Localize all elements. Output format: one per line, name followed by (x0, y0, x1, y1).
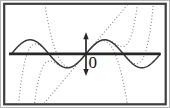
origin-label: 0 (89, 53, 98, 72)
sin-taylor-plot: 0 (1, 1, 169, 107)
sin-taylor-figure: 0 (0, 0, 170, 108)
y-axis-up-arrowhead (83, 32, 88, 39)
